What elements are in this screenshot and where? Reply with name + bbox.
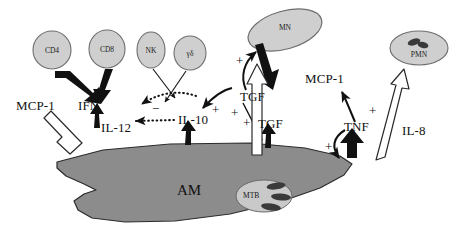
mediator-il12: IL-12 — [101, 121, 131, 134]
mediator-mcp1-right: MCP-1 — [305, 72, 344, 85]
cell-label-gammadelta: γδ — [181, 50, 199, 58]
mediator-tnf: TNF — [344, 120, 369, 133]
sign-plus-il10: + — [212, 103, 219, 116]
arrow-il10-inhibits-ifn — [142, 93, 196, 104]
mediator-il10: IL-10 — [178, 113, 208, 126]
arrow-hollow-mcp1-right — [247, 64, 268, 155]
sign-minus-ifn: − — [152, 102, 159, 115]
mediator-mcp1-left: MCP-1 — [16, 99, 55, 112]
cell-pmn — [390, 31, 448, 65]
arrow-hollow-il8-to-pmn — [376, 69, 409, 160]
sign-plus-mn: + — [236, 54, 243, 67]
macrophage-label: AM — [177, 183, 201, 198]
sign-plus-tgf-low: + — [243, 116, 250, 129]
cell-label-cd4: CD4 — [41, 47, 63, 55]
immunology-pathway-diagram: CD4 CD8 NK γδ MN PMN AM MTB MCP-1 IFN IL… — [0, 0, 460, 245]
mediator-ifn: IFN — [78, 99, 99, 112]
sign-plus-tgf-up: + — [231, 106, 238, 119]
sign-plus-tnf-low: + — [325, 140, 332, 153]
arrow-tnf-to-mcp1 — [342, 92, 355, 122]
cell-label-mn: MN — [274, 24, 296, 32]
mediator-tgf-upper: TGF — [240, 90, 265, 103]
sign-plus-tnf-up: + — [369, 104, 376, 117]
arrow-gammadelta-to-am — [165, 71, 186, 102]
cell-label-nk: NK — [141, 47, 161, 55]
mtb-label: MTB — [243, 192, 259, 200]
alveolar-macrophage-cell — [57, 143, 352, 222]
mediator-tgf-lower: TGF — [258, 117, 283, 130]
arrow-il10-inhibits-il12 — [136, 120, 174, 121]
arrow-curve-am-to-tnf — [334, 130, 345, 158]
arrow-hollow-mcp1-left — [44, 111, 82, 154]
diagram-canvas — [0, 0, 460, 245]
cell-label-cd8: CD8 — [96, 46, 118, 54]
mediator-il8: IL-8 — [402, 124, 426, 137]
cell-label-pmn: PMN — [407, 51, 431, 59]
